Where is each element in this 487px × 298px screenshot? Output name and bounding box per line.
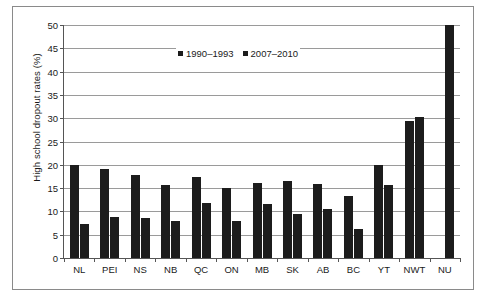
bar — [283, 181, 292, 258]
bar — [141, 218, 150, 258]
bar-group — [430, 25, 460, 258]
bar-group — [216, 25, 246, 258]
bar — [161, 185, 170, 258]
bar — [110, 217, 119, 258]
x-tick-label: MB — [247, 264, 277, 275]
x-tick-label: AB — [308, 264, 338, 275]
legend-swatch-icon — [178, 51, 183, 56]
bar — [374, 165, 383, 258]
legend-entry: 2007–2010 — [243, 48, 299, 59]
bar — [80, 224, 89, 258]
plot-area: 05101520253035404550 NLPEINSNBQCONMBSKAB… — [63, 25, 460, 259]
bar — [171, 221, 180, 258]
x-axis-ticks — [64, 258, 460, 263]
bar — [415, 117, 424, 258]
bar-group — [369, 25, 399, 258]
bar — [354, 229, 363, 258]
bar-group — [277, 25, 307, 258]
legend-label: 1990–1993 — [186, 48, 234, 59]
x-tick-label: SK — [277, 264, 307, 275]
chart-legend: 1990–19932007–2010 — [176, 48, 300, 59]
bar — [70, 165, 79, 258]
bar — [445, 25, 454, 258]
x-tick-mark — [247, 258, 248, 262]
x-tick-label: NL — [64, 264, 94, 275]
x-tick-mark — [308, 258, 309, 262]
bar-group — [338, 25, 368, 258]
x-tick-mark — [94, 258, 95, 262]
bar — [263, 204, 272, 258]
bar — [202, 203, 211, 258]
bar-group — [186, 25, 216, 258]
x-tick-mark — [277, 258, 278, 262]
x-tick-label: PEI — [94, 264, 124, 275]
x-tick-label: NU — [430, 264, 460, 275]
bar — [344, 196, 353, 258]
x-tick-mark — [125, 258, 126, 262]
bar — [384, 185, 393, 258]
x-tick-label: YT — [369, 264, 399, 275]
bar-group — [155, 25, 185, 258]
x-tick-label: ON — [216, 264, 246, 275]
chart-figure: High school dropout rates (%) 0510152025… — [0, 0, 487, 298]
x-tick-label: BC — [338, 264, 368, 275]
bar — [131, 175, 140, 258]
x-tick-label: QC — [186, 264, 216, 275]
x-tick-label: NS — [125, 264, 155, 275]
bar — [100, 169, 109, 258]
x-tick-mark — [338, 258, 339, 262]
x-axis-labels: NLPEINSNBQCONMBSKABBCYTNWTNU — [64, 264, 460, 275]
bar-group — [64, 25, 94, 258]
bars-layer — [64, 25, 460, 258]
bar-group — [125, 25, 155, 258]
x-tick-mark — [64, 258, 65, 262]
x-tick-mark — [460, 258, 461, 262]
x-tick-label: NWT — [399, 264, 429, 275]
bar — [313, 184, 322, 258]
bar — [253, 183, 262, 258]
bar — [293, 214, 302, 258]
bar — [192, 177, 201, 258]
x-tick-mark — [369, 258, 370, 262]
bar — [323, 209, 332, 258]
legend-entry: 1990–1993 — [178, 48, 234, 59]
x-tick-mark — [216, 258, 217, 262]
bar-group — [247, 25, 277, 258]
bar — [232, 221, 241, 258]
bar — [222, 188, 231, 258]
bar-group — [308, 25, 338, 258]
legend-label: 2007–2010 — [251, 48, 299, 59]
y-axis-title: High school dropout rates (%) — [31, 18, 42, 218]
x-tick-label: NB — [155, 264, 185, 275]
x-tick-mark — [155, 258, 156, 262]
bar-group — [94, 25, 124, 258]
x-tick-mark — [186, 258, 187, 262]
bar — [405, 121, 414, 258]
bar-group — [399, 25, 429, 258]
legend-swatch-icon — [243, 51, 248, 56]
x-tick-mark — [430, 258, 431, 262]
x-tick-mark — [399, 258, 400, 262]
